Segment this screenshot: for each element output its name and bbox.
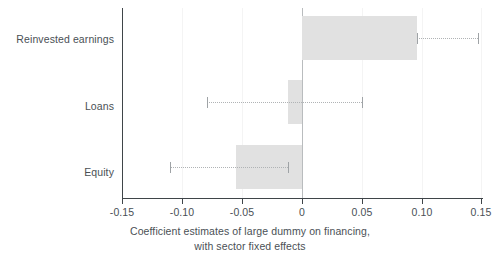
x-tick-label--0.15: -0.15 — [110, 206, 134, 218]
y-axis-spine — [122, 8, 123, 199]
error-bar-cap-high-loans — [362, 97, 363, 108]
x-tick-mark-0.10 — [422, 199, 423, 204]
error-bar-line-reinvested-earnings — [417, 38, 478, 39]
gridline-0.15 — [481, 8, 482, 198]
y-tick-label-equity: Equity — [0, 166, 114, 178]
x-tick-label-0.10: 0.10 — [412, 206, 433, 218]
error-bar-cap-high-equity — [288, 162, 289, 173]
x-tick-label--0.10: -0.10 — [170, 206, 194, 218]
bar-reinvested-earnings — [302, 16, 417, 60]
gridline-0.10 — [422, 8, 423, 198]
x-tick-mark--0.05 — [242, 199, 243, 204]
y-tick-label-reinvested-earnings: Reinvested earnings — [0, 33, 114, 45]
x-tick-label-0: 0 — [299, 206, 305, 218]
y-tick-label-loans: Loans — [0, 100, 114, 112]
x-tick-label-0.15: 0.15 — [471, 206, 492, 218]
error-bar-line-equity — [170, 167, 288, 168]
x-axis-title-line-1: Coefficient estimates of large dummy on … — [0, 224, 500, 239]
error-bar-cap-low-equity — [170, 162, 171, 173]
plot-area — [122, 8, 482, 198]
x-tick-mark-0.05 — [362, 199, 363, 204]
error-bar-cap-low-reinvested-earnings — [417, 33, 418, 44]
x-tick-mark-0.15 — [481, 199, 482, 204]
x-axis-title-line-2: with sector fixed effects — [0, 239, 500, 254]
gridline--0.10 — [182, 8, 183, 198]
x-axis-title: Coefficient estimates of large dummy on … — [0, 224, 500, 253]
x-tick-label-0.05: 0.05 — [352, 206, 373, 218]
error-bar-cap-low-loans — [207, 97, 208, 108]
x-tick-mark--0.10 — [182, 199, 183, 204]
y-axis-labels: Reinvested earnings Loans Equity — [0, 0, 114, 260]
x-tick-mark--0.15 — [122, 199, 123, 204]
x-tick-label--0.05: -0.05 — [230, 206, 254, 218]
x-tick-mark-0 — [302, 199, 303, 204]
error-bar-line-loans — [207, 102, 362, 103]
coefficient-estimates-chart: Reinvested earnings Loans Equity — [0, 0, 500, 260]
error-bar-cap-high-reinvested-earnings — [478, 33, 479, 44]
